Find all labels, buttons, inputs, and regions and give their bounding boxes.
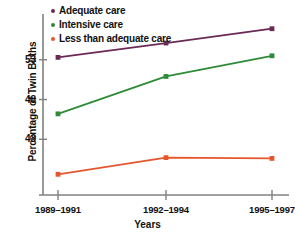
legend-item-label: Adequate care bbox=[59, 5, 125, 16]
legend-item: Less than adequate care bbox=[51, 32, 171, 45]
series-line bbox=[58, 56, 272, 114]
dot-marker bbox=[51, 9, 55, 13]
data-point-marker bbox=[56, 111, 61, 116]
legend-item: Adequate care bbox=[51, 4, 171, 17]
x-axis-tick-label: 1995–1997 bbox=[249, 204, 295, 215]
series-line bbox=[58, 158, 272, 175]
x-axis-title: Years bbox=[0, 219, 295, 230]
data-point-marker bbox=[164, 155, 169, 160]
data-point-marker bbox=[56, 55, 61, 60]
x-axis-tick-label: 1989–1991 bbox=[35, 204, 81, 215]
data-point-marker bbox=[270, 156, 275, 161]
data-point-marker bbox=[164, 74, 169, 79]
legend-item-label: Intensive care bbox=[59, 19, 123, 30]
legend-item: Intensive care bbox=[51, 18, 171, 31]
data-point-marker bbox=[56, 172, 61, 177]
chart-legend: Adequate careIntensive careLess than ade… bbox=[51, 4, 171, 45]
dot-marker bbox=[51, 37, 55, 41]
data-point-marker bbox=[270, 53, 275, 58]
legend-item-label: Less than adequate care bbox=[59, 33, 171, 44]
x-axis-tick-label: 1992–1994 bbox=[143, 204, 189, 215]
dot-marker bbox=[51, 23, 55, 27]
data-point-marker bbox=[270, 26, 275, 31]
line-chart: Percentage of Twin Births 534843 Adequat… bbox=[0, 0, 295, 238]
